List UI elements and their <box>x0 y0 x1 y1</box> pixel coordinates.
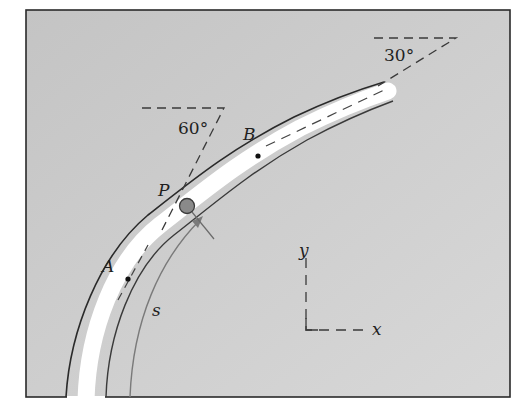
label-A: A <box>100 256 114 276</box>
label-s: s <box>152 300 161 320</box>
point-B-marker <box>255 153 260 158</box>
label-y-axis: y <box>298 240 309 260</box>
label-x-axis: x <box>372 319 382 339</box>
label-B: B <box>242 124 256 144</box>
label-30-deg: 30° <box>384 45 414 65</box>
label-60-deg: 60° <box>178 118 208 138</box>
particle-P <box>180 199 195 214</box>
label-P: P <box>157 180 170 200</box>
diagram-canvas: A B 60° 30° P s y x <box>0 0 526 413</box>
point-A-marker <box>125 276 130 281</box>
